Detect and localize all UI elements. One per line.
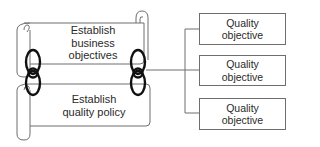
chain-link-left-icon [26, 50, 40, 95]
box-line: objective [222, 71, 263, 84]
box-line: objective [222, 29, 263, 42]
label-line: business [48, 37, 138, 50]
box-line: objective [222, 114, 263, 127]
scroll-business-label: Establish business objectives [48, 24, 138, 62]
quality-objective-box-1: Quality objective [199, 13, 286, 45]
label-line: quality policy [44, 106, 144, 119]
label-line: objectives [48, 49, 138, 62]
quality-objective-box-3: Quality objective [199, 98, 286, 130]
scroll-policy-label: Establish quality policy [44, 93, 144, 118]
box-line: Quality [222, 58, 263, 71]
quality-objective-box-2: Quality objective [199, 55, 286, 86]
connector-lines [146, 29, 199, 113]
box-line: Quality [222, 17, 263, 30]
label-line: Establish [44, 93, 144, 106]
label-line: Establish [48, 24, 138, 37]
box-line: Quality [222, 102, 263, 115]
